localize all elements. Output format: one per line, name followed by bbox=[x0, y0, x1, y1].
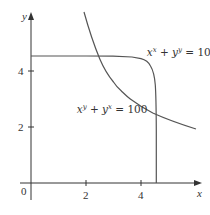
origin-label: 0 bbox=[21, 185, 27, 197]
x-axis-label: x bbox=[196, 187, 202, 199]
y-tick-label-4: 4 bbox=[18, 65, 24, 77]
curve-1000 bbox=[31, 56, 156, 183]
y-axis-label: y bbox=[21, 10, 27, 22]
x-tick-label-2: 2 bbox=[83, 189, 89, 201]
x-tick-label-4: 4 bbox=[138, 189, 144, 201]
label-curve-1000: xx + yy = 1000 bbox=[130, 46, 210, 58]
label-curve-100: xy + yx = 100 bbox=[60, 103, 158, 115]
y-tick-label-2: 2 bbox=[18, 121, 24, 133]
implicit-curves-figure: 2 4 2 4 0 x y xx + yy = 1000 xy + yx = 1… bbox=[0, 0, 210, 215]
y-axis-arrow-icon bbox=[28, 12, 34, 20]
x-axis-arrow-icon bbox=[194, 180, 202, 186]
